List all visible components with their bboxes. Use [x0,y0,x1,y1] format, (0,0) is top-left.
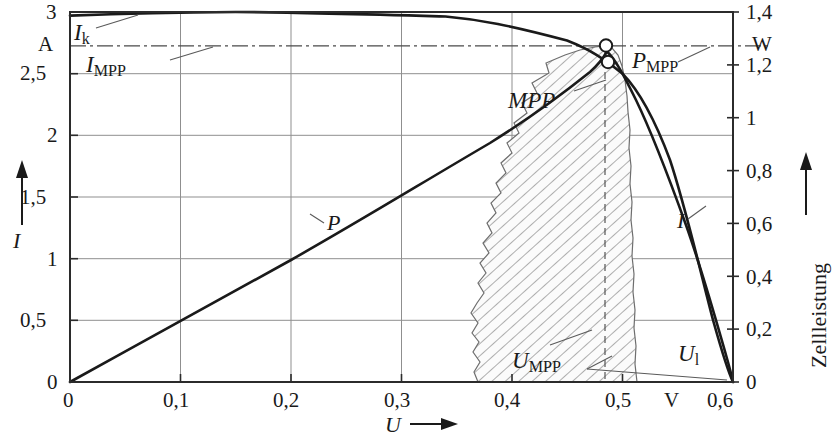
right-axis-arrow [800,152,812,215]
bottom-axis-symbol: U [385,412,401,438]
i-k-sub: k [82,30,90,47]
i-mpp-sub: MPP [94,62,126,79]
i-k-label: Ik [74,20,90,48]
u-mpp-label: UMPP [512,348,561,376]
bottom-tick-0: 0 [63,388,74,413]
p-mpp-main: P [632,48,646,73]
left-tick-2-5: 2,5 [20,61,46,86]
u-l-sub: l [695,351,699,368]
left-axis-symbol: I [13,228,20,254]
u-mpp-sub: MPP [529,358,561,375]
right-tick-1-2: 1,2 [746,53,772,78]
right-axis-title: Zellleistung [806,263,832,368]
p-mpp-sub: MPP [646,58,678,75]
bottom-tick-0-1: 0,1 [163,388,189,413]
right-tick-1: 1 [746,106,757,131]
right-tick-0: 0 [746,370,757,395]
u-mpp-main: U [512,348,529,373]
bottom-tick-0-2: 0,2 [273,388,299,413]
left-tick-0: 0 [47,370,58,395]
p-mpp-label: PMPP [632,48,678,76]
mpp-current-marker [602,56,614,68]
bottom-axis-unit: V [664,388,679,413]
bottom-axis-arrow [410,418,458,430]
mpp-label: MPP [508,88,555,114]
i-k-main: I [74,20,82,45]
i-mpp-label: IMPP [86,52,126,80]
bottom-tick-0-5: 0,5 [605,388,631,413]
p-curve-label: P [327,210,340,236]
i-mpp-main: I [86,52,94,77]
u-l-label: Ul [678,341,699,369]
right-tick-0-4: 0,4 [746,265,772,290]
right-tick-0-6: 0,6 [746,212,772,237]
left-tick-3: 3 [46,0,57,25]
i-curve-label: I [677,208,684,234]
left-axis-unit: A [38,32,53,57]
right-tick-0-8: 0,8 [746,159,772,184]
left-tick-1: 1 [47,247,58,272]
bottom-tick-0-6: 0,6 [707,388,733,413]
u-l-main: U [678,341,695,366]
mpp-power-marker [600,39,612,51]
right-tick-0-2: 0,2 [746,317,772,342]
bottom-tick-0-3: 0,3 [384,388,410,413]
left-tick-2: 2 [47,123,58,148]
right-tick-1-4: 1,4 [746,0,772,25]
left-tick-1-5: 1,5 [20,185,46,210]
bottom-tick-0-4: 0,4 [494,388,520,413]
left-tick-0-5: 0,5 [20,308,46,333]
